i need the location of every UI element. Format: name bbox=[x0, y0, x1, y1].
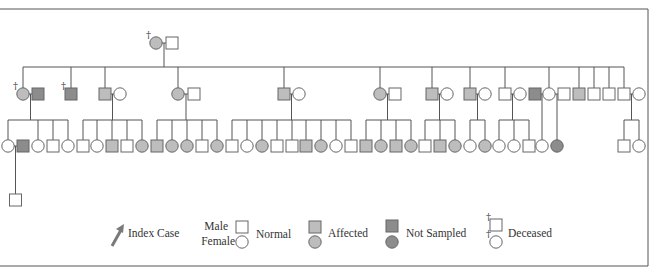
male-not-sampled-symbol bbox=[32, 88, 44, 100]
male-normal-symbol bbox=[618, 140, 630, 152]
female-normal-symbol bbox=[493, 140, 505, 152]
female-affected-symbol bbox=[374, 88, 386, 100]
female-normal-symbol bbox=[441, 88, 453, 100]
female-normal-symbol bbox=[293, 88, 305, 100]
female-normal-symbol bbox=[330, 140, 342, 152]
female-normal-symbol bbox=[241, 140, 253, 152]
female-affected-symbol bbox=[136, 140, 148, 152]
male-affected-symbol bbox=[573, 88, 585, 100]
male-normal-symbol bbox=[618, 88, 630, 100]
female-normal-symbol bbox=[543, 88, 555, 100]
legend-not-sampled-label: Not Sampled bbox=[406, 227, 467, 240]
pedigree-symbols: ††† bbox=[2, 29, 645, 206]
female-normal-symbol bbox=[236, 236, 248, 248]
male-normal-symbol bbox=[196, 140, 208, 152]
female-affected-symbol bbox=[150, 37, 162, 49]
female-affected-symbol bbox=[211, 140, 223, 152]
female-not-sampled-symbol bbox=[551, 140, 563, 152]
legend-deceased-label: Deceased bbox=[508, 227, 552, 239]
female-normal-symbol bbox=[464, 140, 476, 152]
female-affected-symbol bbox=[181, 140, 193, 152]
female-normal-symbol bbox=[32, 140, 44, 152]
male-normal-symbol bbox=[10, 194, 22, 206]
legend-index-case-label: Index Case bbox=[128, 227, 179, 239]
pedigree-lines bbox=[8, 43, 639, 194]
male-not-sampled-symbol bbox=[386, 220, 398, 232]
legend-male-label: Male bbox=[204, 220, 228, 232]
female-affected-symbol bbox=[315, 140, 327, 152]
male-normal-symbol bbox=[286, 140, 298, 152]
female-not-sampled-symbol bbox=[386, 236, 398, 248]
male-affected-symbol bbox=[99, 88, 111, 100]
female-normal-symbol bbox=[490, 236, 502, 248]
male-affected-symbol bbox=[300, 140, 312, 152]
female-normal-symbol bbox=[633, 88, 645, 100]
male-normal-symbol bbox=[236, 221, 248, 233]
legend-affected-label: Affected bbox=[328, 227, 368, 239]
female-normal-symbol bbox=[633, 140, 645, 152]
female-affected-symbol bbox=[479, 140, 491, 152]
deceased-mark: † bbox=[486, 211, 491, 222]
female-affected-symbol bbox=[166, 140, 178, 152]
female-normal-symbol bbox=[114, 88, 126, 100]
female-normal-symbol bbox=[62, 140, 74, 152]
legend-female-label: Female bbox=[201, 235, 235, 247]
male-affected-symbol bbox=[151, 140, 163, 152]
female-normal-symbol bbox=[91, 140, 103, 152]
female-affected-symbol bbox=[172, 88, 184, 100]
legend: Index Case Male Female Normal Affected N… bbox=[112, 211, 552, 248]
male-affected-symbol bbox=[278, 88, 290, 100]
male-not-sampled-symbol bbox=[17, 140, 29, 152]
male-affected-symbol bbox=[434, 140, 446, 152]
male-normal-symbol bbox=[77, 140, 89, 152]
index-case-arrow-icon bbox=[112, 224, 124, 246]
deceased-mark: † bbox=[486, 228, 491, 239]
male-not-sampled-symbol bbox=[529, 88, 541, 100]
female-normal-symbol bbox=[536, 140, 548, 152]
male-normal-symbol bbox=[588, 88, 600, 100]
male-affected-symbol bbox=[309, 221, 321, 233]
male-normal-symbol bbox=[47, 140, 59, 152]
male-normal-symbol bbox=[490, 219, 502, 231]
male-normal-symbol bbox=[271, 140, 283, 152]
male-normal-symbol bbox=[419, 140, 431, 152]
female-affected-symbol bbox=[309, 236, 321, 248]
male-affected-symbol bbox=[426, 88, 438, 100]
male-normal-symbol bbox=[558, 88, 570, 100]
male-normal-symbol bbox=[188, 88, 200, 100]
male-affected-symbol bbox=[390, 140, 402, 152]
female-normal-symbol bbox=[2, 140, 14, 152]
female-normal-symbol bbox=[508, 140, 520, 152]
male-normal-symbol bbox=[499, 88, 511, 100]
male-normal-symbol bbox=[523, 140, 535, 152]
male-normal-symbol bbox=[121, 140, 133, 152]
deceased-mark: † bbox=[61, 80, 66, 91]
male-affected-symbol bbox=[360, 140, 372, 152]
female-affected-symbol bbox=[405, 140, 417, 152]
arrow-shaft bbox=[112, 230, 121, 246]
male-affected-symbol bbox=[464, 88, 476, 100]
male-normal-symbol bbox=[226, 140, 238, 152]
pedigree-chart: ††† Index Case Male Female Normal Affect… bbox=[0, 0, 663, 278]
male-normal-symbol bbox=[345, 140, 357, 152]
deceased-mark: † bbox=[13, 80, 18, 91]
female-affected-symbol bbox=[256, 140, 268, 152]
deceased-mark: † bbox=[146, 29, 151, 40]
male-normal-symbol bbox=[389, 88, 401, 100]
male-affected-symbol bbox=[106, 140, 118, 152]
male-not-sampled-symbol bbox=[65, 88, 77, 100]
male-normal-symbol bbox=[166, 37, 178, 49]
female-affected-symbol bbox=[449, 140, 461, 152]
legend-normal-label: Normal bbox=[256, 228, 291, 240]
female-normal-symbol bbox=[514, 88, 526, 100]
female-affected-symbol bbox=[375, 140, 387, 152]
female-affected-symbol bbox=[17, 88, 29, 100]
male-normal-symbol bbox=[603, 88, 615, 100]
female-normal-symbol bbox=[479, 88, 491, 100]
